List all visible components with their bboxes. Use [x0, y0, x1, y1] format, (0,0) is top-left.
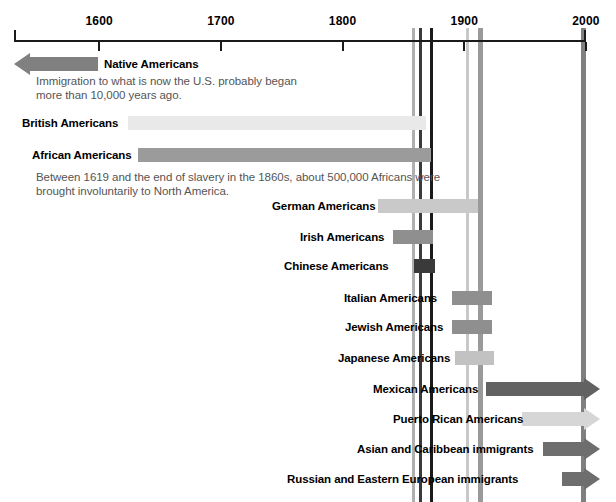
timeline-bar-label: Mexican Americans: [373, 382, 478, 396]
timeline-bar: [138, 148, 431, 162]
timeline-bar-label: Russian and Eastern European immigrants: [287, 472, 518, 486]
timeline-bar-label: African Americans: [32, 148, 132, 162]
timeline-bar: [393, 230, 433, 244]
axis-tick: [98, 42, 100, 51]
era-band: [478, 28, 483, 502]
timeline-bar-label: German Americans: [272, 199, 375, 213]
timeline-bar-label: Japanese Americans: [338, 351, 450, 365]
era-band: [466, 28, 469, 502]
timeline-bar-label: British Americans: [22, 116, 118, 130]
timeline-bar-arrow-right: [562, 468, 600, 490]
axis-start-cap: [14, 30, 16, 41]
timeline-bar-label: Puerto Rican Americans: [393, 412, 523, 426]
immigration-timeline-chart: 16001700180019002000 Native AmericansBri…: [0, 0, 616, 502]
timeline-bar-arrow-right: [486, 378, 600, 400]
axis-tick: [463, 42, 465, 51]
timeline-bar: [414, 259, 435, 273]
timeline-bar: [128, 116, 426, 130]
timeline-note: Between 1619 and the end of slavery in t…: [36, 170, 440, 198]
timeline-bar-label: Italian Americans: [344, 291, 437, 305]
timeline-bar-arrow-right: [522, 408, 600, 430]
timeline-bar: [452, 320, 492, 334]
timeline-bar-label: Chinese Americans: [284, 259, 389, 273]
timeline-bar: [455, 351, 494, 365]
axis-tick: [220, 42, 222, 51]
timeline-bar: [378, 199, 478, 213]
axis-tick-label: 1700: [207, 14, 235, 28]
timeline-bar: [452, 291, 492, 305]
axis-tick-label: 2000: [572, 14, 600, 28]
axis-end-cap: [584, 30, 586, 41]
axis-tick-label: 1900: [451, 14, 479, 28]
timeline-bar-label: Jewish Americans: [345, 320, 443, 334]
axis-tick: [585, 42, 587, 51]
timeline-bar-label: Asian and Caribbean immigrants: [357, 442, 534, 456]
axis-tick-label: 1800: [329, 14, 357, 28]
timeline-bar-arrow-left: [14, 53, 98, 75]
timeline-bar-label: Irish Americans: [300, 230, 384, 244]
axis-tick: [342, 42, 344, 51]
era-band: [581, 28, 586, 502]
timeline-note: Immigration to what is now the U.S. prob…: [36, 74, 297, 102]
timeline-bar-label: Native Americans: [104, 57, 199, 71]
axis-tick-label: 1600: [85, 14, 113, 28]
timeline-bar-arrow-right: [543, 438, 600, 460]
